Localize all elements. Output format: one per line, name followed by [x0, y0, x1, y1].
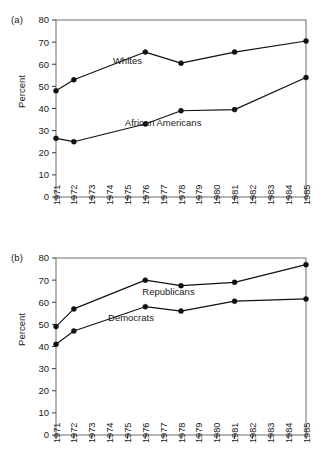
data-point-marker [179, 61, 184, 66]
x-axis-tick-label: 1985 [302, 423, 312, 443]
x-axis-tick-label: 1977 [159, 185, 169, 205]
y-axis-tick-label: 40 [38, 341, 49, 352]
x-axis-tick-label: 1980 [212, 185, 222, 205]
y-axis-tick-label: 60 [38, 59, 49, 70]
x-axis-tick-label: 1972 [69, 423, 79, 443]
data-point-marker [54, 136, 59, 141]
x-axis-tick-label: 1972 [69, 185, 79, 205]
x-axis-tick-label: 1975 [123, 185, 133, 205]
series-line [56, 41, 306, 91]
x-axis-tick-label: 1982 [248, 423, 258, 443]
data-point-marker [304, 39, 309, 44]
y-axis-tick-label: 10 [38, 407, 49, 418]
x-axis-tick-label: 1980 [212, 423, 222, 443]
x-axis-tick-label: 1981 [230, 185, 240, 205]
data-point-marker [71, 77, 76, 82]
data-point-marker [143, 278, 148, 283]
x-axis-tick-label: 1976 [141, 185, 151, 205]
data-point-marker [304, 262, 309, 267]
data-point-marker [304, 296, 309, 301]
x-axis-tick-label: 1984 [284, 423, 294, 443]
y-axis-tick-label: 10 [38, 169, 49, 180]
y-axis-tick-label: 0 [44, 429, 49, 440]
x-axis-tick-label: 1983 [266, 185, 276, 205]
series-annotation-label: African Americans [125, 117, 202, 128]
y-axis-tick-label: 0 [44, 191, 49, 202]
data-point-marker [71, 306, 76, 311]
x-axis-tick-label: 1971 [52, 185, 62, 205]
x-axis-tick-label: 1982 [248, 185, 258, 205]
data-point-marker [54, 342, 59, 347]
y-axis-tick-label: 50 [38, 81, 49, 92]
x-axis-tick-label: 1983 [266, 423, 276, 443]
figure-two-panel-line-charts: (a) Percent 0102030405060708019711972197… [0, 0, 323, 476]
x-axis-tick-label: 1985 [302, 185, 312, 205]
y-axis-tick-label: 50 [38, 319, 49, 330]
panel-b-plot: 0102030405060708019711972197319741975197… [0, 238, 323, 476]
data-point-marker [304, 75, 309, 80]
chart-panel-b: (b) Percent 0102030405060708019711972197… [0, 238, 323, 476]
data-point-marker [143, 304, 148, 309]
x-axis-tick-label: 1979 [194, 423, 204, 443]
data-point-marker [232, 299, 237, 304]
series-annotation-label: Whites [113, 55, 142, 66]
data-point-marker [179, 108, 184, 113]
y-axis-tick-label: 80 [38, 252, 49, 263]
x-axis-tick-label: 1971 [52, 423, 62, 443]
data-point-marker [54, 88, 59, 93]
x-axis-tick-label: 1975 [123, 423, 133, 443]
data-point-marker [232, 50, 237, 55]
data-point-marker [71, 139, 76, 144]
x-axis-tick-label: 1978 [177, 185, 187, 205]
x-axis-tick-label: 1977 [159, 423, 169, 443]
x-axis-tick-label: 1973 [87, 423, 97, 443]
data-point-marker [71, 329, 76, 334]
data-point-marker [232, 280, 237, 285]
x-axis-tick-label: 1981 [230, 423, 240, 443]
panel-a-plot: 0102030405060708019711972197319741975197… [0, 0, 323, 238]
x-axis-tick-label: 1976 [141, 423, 151, 443]
x-axis-tick-label: 1984 [284, 185, 294, 205]
chart-panel-a: (a) Percent 0102030405060708019711972197… [0, 0, 323, 238]
y-axis-tick-label: 70 [38, 37, 49, 48]
y-axis-tick-label: 20 [38, 385, 49, 396]
data-point-marker [179, 309, 184, 314]
x-axis-tick-label: 1979 [194, 185, 204, 205]
y-axis-tick-label: 60 [38, 297, 49, 308]
series-line [56, 299, 306, 344]
series-annotation-label: Democrats [108, 312, 154, 323]
data-point-marker [143, 50, 148, 55]
y-axis-tick-label: 20 [38, 147, 49, 158]
x-axis-tick-label: 1973 [87, 185, 97, 205]
series-annotation-label: Republicans [142, 286, 195, 297]
data-point-marker [54, 324, 59, 329]
y-axis-tick-label: 30 [38, 363, 49, 374]
y-axis-tick-label: 80 [38, 14, 49, 25]
x-axis-tick-label: 1978 [177, 423, 187, 443]
y-axis-tick-label: 30 [38, 125, 49, 136]
y-axis-tick-label: 70 [38, 275, 49, 286]
y-axis-tick-label: 40 [38, 103, 49, 114]
x-axis-tick-label: 1974 [105, 423, 115, 443]
x-axis-tick-label: 1974 [105, 185, 115, 205]
data-point-marker [232, 107, 237, 112]
